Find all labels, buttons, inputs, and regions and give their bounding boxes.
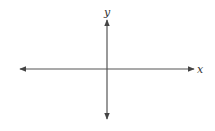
- y-axis-label: y: [103, 6, 111, 19]
- x-axis-label: x: [197, 63, 204, 76]
- axes-diagram: x y: [0, 0, 215, 131]
